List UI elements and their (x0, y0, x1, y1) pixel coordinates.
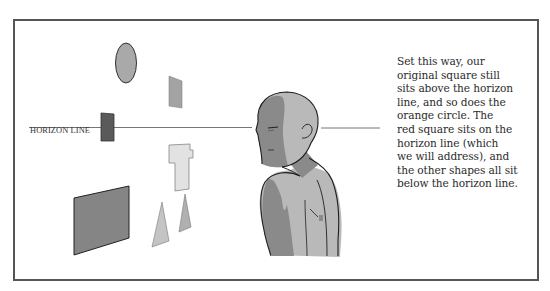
caption-line: red square sits on the (397, 123, 532, 137)
caption-line: the other shapes all sit (397, 164, 532, 178)
caption-line: we will address), and (397, 150, 532, 164)
horizon-line-label: HORIZON LINE (30, 126, 90, 135)
caption-line: horizon line (which (397, 137, 532, 151)
caption-line: line, and so does the (397, 96, 532, 110)
original-square-shape (169, 76, 182, 108)
caption-line: sits above the horizon (397, 82, 532, 96)
caption-line: original square still (397, 69, 532, 83)
red-square-shape (101, 113, 114, 141)
large-rectangle-shape (74, 186, 129, 255)
caption-line: orange circle. The (397, 109, 532, 123)
triangle-left-shape (152, 202, 169, 247)
cross-shape (169, 144, 193, 191)
caption-line: below the horizon line. (397, 177, 532, 191)
caption-text: Set this way, our original square still … (397, 55, 532, 191)
caption-line: Set this way, our (397, 55, 532, 69)
orange-circle-shape (116, 43, 137, 83)
triangle-right-shape (179, 194, 191, 232)
man-figure (256, 92, 342, 257)
